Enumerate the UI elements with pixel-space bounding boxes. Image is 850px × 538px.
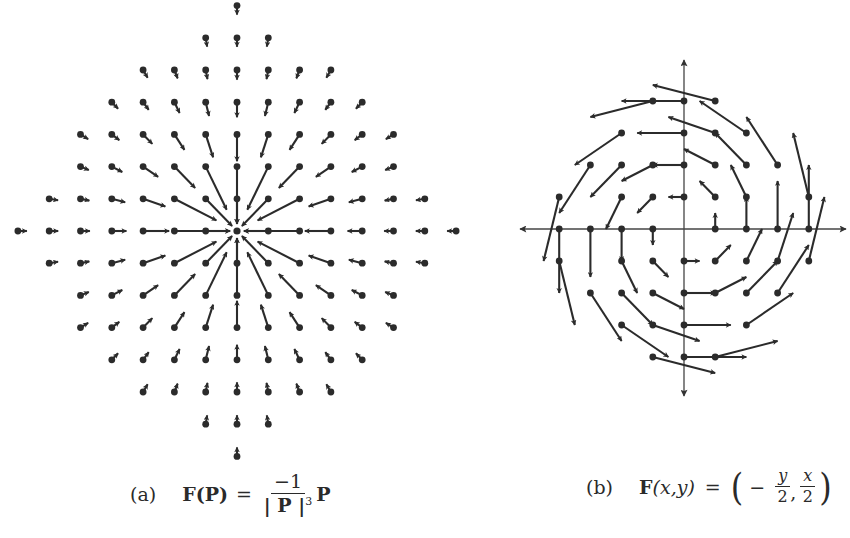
formula-b-args: (x,y) [653,476,695,498]
vector-tail-dot [202,67,209,74]
vector-tail-dot [296,99,303,106]
vector-tail-dot [77,163,84,170]
vector-tail-dot [108,99,115,106]
vector-tail-dot [649,194,656,201]
vector-tail-dot [359,195,366,202]
vector-arrow [715,341,777,357]
vector-arrow [684,149,715,165]
vector-arrow [700,101,747,133]
vector-tail-dot [140,389,147,396]
vector-tail-dot [712,98,719,105]
vector-tail-dot [234,195,241,202]
vector-arrow [715,277,746,293]
formula-b-fraction-1: y 2 [775,468,790,505]
formula-b-open-paren: ( [731,468,743,505]
vector-tail-dot [618,322,625,329]
vector-tail-dot [234,34,241,41]
vector-arrow [279,274,300,295]
vector-arrow [793,133,809,197]
vector-tail-dot [359,228,366,235]
vector-tail-dot [296,67,303,74]
vector-arrow [559,261,575,325]
vector-tail-dot [359,324,366,331]
vector-tail-dot [77,292,84,299]
vector-tail-dot [359,292,366,299]
caption-a-label: (a) [130,483,156,505]
vector-tail-dot [171,228,178,235]
vector-tail-dot [296,260,303,267]
vector-tail-dot [328,163,335,170]
vector-tail-dot [140,163,147,170]
vector-tail-dot [234,453,241,460]
vector-tail-dot [234,356,241,363]
vector-arrow [206,134,213,157]
vector-tail-dot [265,356,272,363]
vector-tail-dot [108,324,115,331]
panel-a-radial-field [15,2,460,460]
vector-tail-dot [359,99,366,106]
vector-tail-dot [202,421,209,428]
vector-tail-dot [618,290,625,297]
vector-arrow [653,325,700,341]
vector-tail-dot [743,290,750,297]
vector-tail-dot [328,67,335,74]
vector-tail-dot [202,34,209,41]
vector-tail-dot [15,228,22,235]
vector-tail-dot [712,226,719,233]
vector-arrow [653,293,684,309]
vector-tail-dot [390,163,397,170]
vector-tail-dot [328,292,335,299]
vector-arrow [575,133,622,165]
vector-tail-dot [202,195,209,202]
panel-b-rotational-field [520,60,846,396]
formula-a-equals: = [236,483,252,505]
vector-tail-dot [390,195,397,202]
vector-tail-dot [171,163,178,170]
vector-tail-dot [265,195,272,202]
vector-arrow [590,101,652,117]
vector-tail-dot [140,67,147,74]
vector-tail-dot [171,195,178,202]
vector-tail-dot [712,354,719,361]
vector-tail-dot [296,163,303,170]
vector-arrow [622,261,638,293]
vector-tail-dot [649,226,656,233]
formula-a-rhs: P [316,483,330,505]
vector-tail-dot [743,162,750,169]
vector-tail-dot [265,292,272,299]
formula-a-fraction: −1 | P |3 [264,472,312,515]
vector-tail-dot [618,194,625,201]
vector-tail-dot [390,131,397,138]
vector-tail-dot [108,260,115,267]
vector-tail-dot [234,99,241,106]
vector-tail-dot [390,292,397,299]
vector-tail-dot [171,99,178,106]
vector-tail-dot [171,131,178,138]
formula-a-lhs: F(P) [182,483,228,505]
vector-arrow [242,236,268,263]
vector-tail-dot [587,226,594,233]
vector-arrow [309,256,331,264]
vector-tail-dot [171,292,178,299]
vector-tail-dot [774,290,781,297]
vector-tail-dot [77,228,84,235]
vector-tail-dot [587,162,594,169]
vector-arrow [309,199,331,207]
vector-tail-dot [171,260,178,267]
vector-arrow [261,134,268,157]
vector-arrow [668,117,715,133]
vector-tail-dot [296,131,303,138]
vector-tail-dot [681,130,688,137]
vector-tail-dot [234,67,241,74]
vector-tail-dot [618,162,625,169]
vector-tail-dot [234,163,241,170]
vector-tail-dot [265,99,272,106]
vector-tail-dot [265,131,272,138]
vector-tail-dot [328,99,335,106]
vector-arrow [622,325,669,357]
vector-arrow [143,199,165,207]
vector-tail-dot [328,228,335,235]
caption-b: (b) F (x,y) = ( − y 2 , x 2 ) [586,468,832,505]
vector-tail-dot [681,322,688,329]
vector-tail-dot [234,131,241,138]
